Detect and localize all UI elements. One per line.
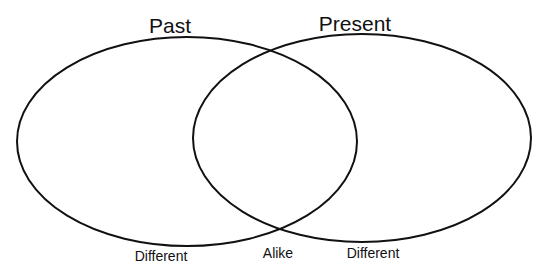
venn-diagram: Past Present Different Alike Different: [0, 0, 545, 276]
past-ellipse: [17, 37, 357, 246]
alike-label: Alike: [263, 245, 294, 261]
past-different-label: Different: [135, 248, 188, 264]
present-ellipse: [193, 34, 531, 242]
past-title: Past: [149, 14, 191, 37]
present-different-label: Different: [347, 245, 400, 261]
present-title: Present: [319, 12, 392, 35]
